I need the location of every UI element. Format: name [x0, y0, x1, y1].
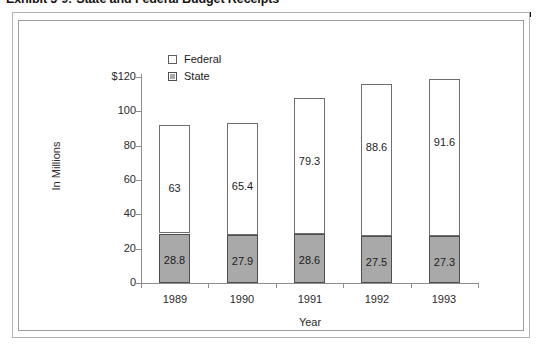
y-tick-label: 100 — [86, 105, 136, 116]
legend-item-state[interactable]: State — [168, 69, 221, 84]
y-tick-mark — [136, 214, 141, 215]
x-axis-line — [141, 283, 478, 284]
y-tick-label: 20 — [86, 243, 136, 254]
chart-legend: Federal State — [168, 52, 221, 86]
y-tick-mark — [136, 111, 141, 112]
y-tick-label: 40 — [86, 208, 136, 219]
x-tick-mark — [411, 283, 412, 288]
y-tick-label-text: 60 — [92, 174, 136, 185]
x-tick-label-1993: 1993 — [414, 293, 474, 305]
legend-label-federal: Federal — [184, 54, 221, 65]
bar-value-federal-1989: 63 — [160, 182, 189, 194]
y-tick-label-text: $120 — [92, 71, 136, 82]
x-tick-label-1989: 1989 — [145, 293, 205, 305]
y-tick-label-text: 100 — [92, 105, 136, 116]
y-tick-label: 80 — [86, 140, 136, 151]
bar-segment-federal-1991[interactable]: 79.3 — [294, 98, 325, 234]
y-tick-label-text: 80 — [92, 140, 136, 151]
bar-value-state-1990: 27.9 — [228, 255, 257, 267]
x-axis-title: Year — [142, 316, 478, 328]
legend-label-state: State — [184, 71, 210, 82]
bar-segment-state-1990[interactable]: 27.9 — [227, 235, 258, 283]
legend-item-federal[interactable]: Federal — [168, 52, 221, 67]
bar-segment-state-1989[interactable]: 28.8 — [159, 234, 190, 283]
bar-segment-state-1992[interactable]: 27.5 — [361, 236, 392, 283]
bar-value-state-1993: 27.3 — [430, 256, 459, 268]
y-tick-mark — [136, 146, 141, 147]
chart-plot-area: $120100806040200 19891990199119921993 63… — [0, 0, 544, 356]
bar-segment-federal-1992[interactable]: 88.6 — [361, 84, 392, 236]
bar-segment-state-1993[interactable]: 27.3 — [429, 236, 460, 283]
bar-value-federal-1991: 79.3 — [295, 155, 324, 167]
bar-value-state-1991: 28.6 — [295, 254, 324, 266]
y-tick-label: 60 — [86, 174, 136, 185]
x-tick-mark — [478, 283, 479, 288]
bar-segment-federal-1989[interactable]: 63 — [159, 125, 190, 233]
y-tick-mark — [136, 180, 141, 181]
legend-swatch-state-icon — [168, 72, 177, 81]
bar-segment-federal-1993[interactable]: 91.6 — [429, 79, 460, 236]
x-tick-label-1992: 1992 — [347, 293, 407, 305]
y-tick-label-text: 40 — [92, 208, 136, 219]
legend-swatch-federal-icon — [168, 55, 177, 64]
bar-value-federal-1990: 65.4 — [228, 180, 257, 192]
x-tick-mark — [208, 283, 209, 288]
x-tick-mark — [276, 283, 277, 288]
y-tick-label: 0 — [86, 277, 136, 288]
x-tick-label-1991: 1991 — [280, 293, 340, 305]
y-tick-label-text: 20 — [92, 243, 136, 254]
bar-value-federal-1992: 88.6 — [362, 141, 391, 153]
y-axis-line — [141, 74, 142, 284]
x-tick-label-1990: 1990 — [212, 293, 272, 305]
y-tick-mark — [136, 249, 141, 250]
y-axis-title: In Millions — [50, 106, 62, 226]
bar-value-federal-1993: 91.6 — [430, 136, 459, 148]
bar-segment-federal-1990[interactable]: 65.4 — [227, 123, 258, 235]
y-tick-mark — [136, 77, 141, 78]
bar-value-state-1989: 28.8 — [160, 254, 189, 266]
x-tick-mark — [141, 283, 142, 288]
y-tick-label-text: 0 — [92, 277, 136, 288]
bar-value-state-1992: 27.5 — [362, 256, 391, 268]
y-tick-label: $120 — [86, 71, 136, 82]
bar-segment-state-1991[interactable]: 28.6 — [294, 234, 325, 283]
x-tick-mark — [343, 283, 344, 288]
